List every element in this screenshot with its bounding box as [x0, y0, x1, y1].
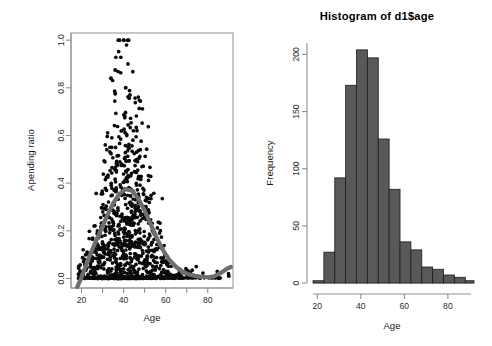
histogram-ytick-label: 100	[291, 161, 301, 176]
histogram-bar	[378, 139, 389, 283]
histogram-xtick-label: 80	[443, 301, 453, 311]
histogram-title: Histogram of d1$age	[320, 10, 434, 22]
scatter-ytick-label: 0.6	[56, 129, 66, 141]
histogram-bar	[335, 178, 346, 283]
histogram-xtick-label: 20	[313, 301, 323, 311]
histogram-panel: Histogram of d1$age 050100150200 2040608…	[246, 0, 492, 346]
histogram-bar	[454, 277, 465, 283]
histogram-bar	[346, 85, 357, 283]
histogram-y-tick-group: 050100150200	[291, 47, 307, 285]
scatter-ytick-label: 0.2	[56, 225, 66, 237]
histogram-bar	[357, 50, 368, 283]
histogram-xtick-label: 40	[356, 301, 366, 311]
scatter-plot-svg: 0.00.20.40.60.81.0 20406080 Age Apending…	[0, 0, 246, 346]
histogram-bar	[313, 281, 324, 283]
histogram-bar	[324, 252, 335, 283]
histogram-bar	[389, 189, 400, 283]
histogram-ylabel: Frequency	[264, 140, 275, 186]
histogram-bars	[313, 50, 474, 283]
histogram-bar	[433, 269, 444, 283]
histogram-ytick-label: 50	[291, 221, 301, 231]
histogram-bar	[444, 275, 455, 283]
histogram-bar	[422, 267, 433, 283]
histogram-bar	[465, 281, 474, 283]
scatter-xtick-label: 40	[119, 295, 129, 305]
scatter-ytick-label: 0.8	[56, 82, 66, 94]
scatter-y-tick-group: 0.00.20.40.60.81.0	[56, 34, 71, 284]
scatter-point-cloud	[77, 38, 231, 280]
histogram-x-tick-group: 20406080	[313, 294, 453, 311]
histogram-bar	[367, 58, 378, 283]
scatter-ytick-label: 0.4	[56, 177, 66, 189]
scatter-plot-panel: 0.00.20.40.60.81.0 20406080 Age Apending…	[0, 0, 246, 346]
r-figure-two-panel: 0.00.20.40.60.81.0 20406080 Age Apending…	[0, 0, 492, 346]
scatter-xtick-label: 80	[203, 295, 213, 305]
histogram-ytick-label: 200	[291, 47, 301, 62]
histogram-svg: Histogram of d1$age 050100150200 2040608…	[246, 0, 492, 346]
histogram-ytick-label: 0	[291, 280, 301, 285]
scatter-xtick-label: 20	[77, 295, 87, 305]
scatter-ytick-label: 1.0	[56, 34, 66, 46]
histogram-bar	[411, 250, 422, 283]
scatter-xtick-label: 60	[161, 295, 171, 305]
histogram-xtick-label: 60	[400, 301, 410, 311]
scatter-xlabel: Age	[143, 312, 160, 323]
scatter-ytick-label: 0.0	[56, 272, 66, 284]
histogram-xlabel: Age	[383, 320, 400, 331]
scatter-x-tick-group: 20406080	[77, 288, 213, 305]
scatter-ylabel: Apending ratio	[25, 129, 36, 191]
histogram-ytick-label: 150	[291, 104, 301, 119]
histogram-bar	[400, 242, 411, 283]
